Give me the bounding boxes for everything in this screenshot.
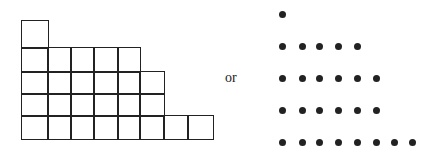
diagram-cell xyxy=(21,71,49,95)
ferrers-dot xyxy=(299,107,306,114)
diagram-cell xyxy=(139,115,165,140)
diagram-cell xyxy=(47,115,72,140)
ferrers-dot xyxy=(373,139,380,146)
ferrers-dot xyxy=(373,107,380,114)
ferrers-dot xyxy=(335,75,342,82)
diagram-cell xyxy=(117,115,141,140)
diagram-cell xyxy=(70,115,95,140)
diagram-cell xyxy=(21,93,49,117)
ferrers-dot xyxy=(279,107,286,114)
ferrers-dot xyxy=(391,139,398,146)
partition-figure: or xyxy=(0,0,437,154)
diagram-cell xyxy=(21,115,49,140)
diagram-cell xyxy=(117,71,141,95)
ferrers-dot xyxy=(279,11,286,18)
diagram-cell xyxy=(117,47,141,73)
diagram-cell xyxy=(163,115,189,140)
ferrers-dot xyxy=(316,75,323,82)
ferrers-dot xyxy=(299,75,306,82)
ferrers-dot xyxy=(354,43,361,50)
diagram-cell xyxy=(70,93,95,117)
ferrers-dot xyxy=(354,139,361,146)
ferrers-dot xyxy=(279,139,286,146)
diagram-cell xyxy=(93,47,119,73)
ferrers-dot xyxy=(354,75,361,82)
diagram-cell xyxy=(93,71,119,95)
ferrers-dot xyxy=(373,75,380,82)
diagram-cell xyxy=(47,71,72,95)
ferrers-dot xyxy=(335,43,342,50)
ferrers-dot xyxy=(299,139,306,146)
diagram-cell xyxy=(187,115,214,140)
diagram-cell xyxy=(93,93,119,117)
ferrers-dot xyxy=(354,107,361,114)
ferrers-dot xyxy=(279,43,286,50)
or-label: or xyxy=(225,70,237,86)
diagram-cell xyxy=(47,93,72,117)
diagram-cell xyxy=(70,47,95,73)
ferrers-dot xyxy=(299,43,306,50)
diagram-cell xyxy=(139,93,165,117)
diagram-cell xyxy=(21,47,49,73)
ferrers-dot xyxy=(409,139,416,146)
diagram-cell xyxy=(117,93,141,117)
diagram-cell xyxy=(93,115,119,140)
ferrers-dot xyxy=(335,107,342,114)
ferrers-dot xyxy=(316,107,323,114)
diagram-cell xyxy=(139,71,165,95)
diagram-cell xyxy=(70,71,95,95)
ferrers-dot xyxy=(316,43,323,50)
ferrers-dot xyxy=(335,139,342,146)
ferrers-dot xyxy=(279,75,286,82)
ferrers-dot xyxy=(316,139,323,146)
diagram-cell xyxy=(21,20,49,49)
diagram-cell xyxy=(47,47,72,73)
